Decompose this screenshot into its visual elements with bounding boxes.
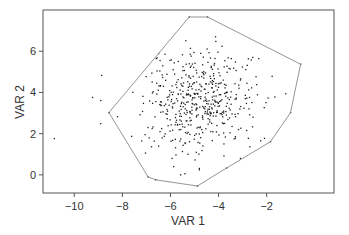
data-point — [264, 138, 265, 139]
data-point — [227, 72, 228, 73]
data-point — [191, 86, 192, 87]
data-point — [165, 80, 166, 81]
data-point — [219, 101, 220, 102]
data-point — [162, 111, 163, 112]
data-point — [175, 122, 176, 123]
data-point — [193, 76, 194, 77]
data-point — [229, 99, 230, 100]
data-point — [171, 101, 172, 102]
data-point — [202, 117, 203, 118]
data-point — [217, 68, 218, 69]
data-point — [205, 128, 206, 129]
data-point — [194, 159, 195, 160]
data-point — [213, 91, 214, 92]
data-point — [211, 67, 212, 68]
data-point — [172, 85, 173, 86]
data-point — [175, 114, 176, 115]
data-point — [192, 63, 193, 64]
data-point — [199, 84, 200, 85]
data-point — [151, 146, 152, 147]
data-point — [167, 99, 168, 100]
data-point — [211, 82, 212, 83]
data-point — [199, 127, 200, 128]
data-point — [184, 142, 185, 143]
data-point — [186, 102, 187, 103]
data-point — [203, 107, 204, 108]
data-point — [246, 83, 247, 84]
data-point — [200, 53, 201, 54]
data-point — [181, 103, 182, 104]
data-point — [180, 90, 181, 91]
data-point — [145, 152, 146, 153]
data-point — [172, 130, 173, 131]
data-point — [154, 141, 155, 142]
data-point — [181, 77, 182, 78]
data-point — [187, 101, 188, 102]
data-point — [188, 77, 189, 78]
data-point — [224, 123, 225, 124]
data-point — [175, 147, 176, 148]
data-point — [179, 129, 180, 130]
data-point — [192, 84, 193, 85]
data-point — [221, 113, 222, 114]
data-point — [235, 99, 236, 100]
data-point — [234, 138, 235, 139]
data-point — [225, 96, 226, 97]
data-point — [199, 169, 200, 170]
data-point — [209, 121, 210, 122]
data-point — [160, 101, 161, 102]
data-point — [200, 137, 201, 138]
data-point — [211, 123, 212, 124]
data-point — [167, 118, 168, 119]
data-point — [252, 117, 253, 118]
data-point — [180, 113, 181, 114]
data-point — [205, 106, 206, 107]
data-point — [171, 158, 172, 159]
data-point — [183, 145, 184, 146]
data-point — [202, 145, 203, 146]
data-point — [216, 110, 217, 111]
data-point — [272, 76, 273, 77]
data-point — [158, 85, 159, 86]
data-point — [217, 52, 218, 53]
data-point — [185, 74, 186, 75]
data-point — [229, 132, 230, 133]
data-point — [252, 57, 253, 58]
data-point — [192, 103, 193, 104]
data-point — [190, 78, 191, 79]
data-point — [179, 111, 180, 112]
data-point — [196, 70, 197, 71]
data-point — [159, 131, 160, 132]
data-point — [207, 113, 208, 114]
data-point — [175, 139, 176, 140]
data-point — [152, 126, 153, 127]
data-point — [185, 104, 186, 105]
data-point — [249, 114, 250, 115]
data-point — [248, 58, 249, 59]
data-point — [189, 141, 190, 142]
data-point — [198, 96, 199, 97]
data-point — [158, 145, 159, 146]
data-point — [209, 119, 210, 120]
data-point — [165, 113, 166, 114]
data-point — [169, 105, 170, 106]
data-point — [205, 111, 206, 112]
data-point — [172, 103, 173, 104]
data-point — [156, 70, 157, 71]
data-point — [140, 114, 141, 115]
data-point — [245, 98, 246, 99]
data-point — [223, 123, 224, 124]
data-point — [217, 112, 218, 113]
data-point — [209, 111, 210, 112]
data-point — [166, 74, 167, 75]
data-point — [190, 95, 191, 96]
data-point — [204, 113, 205, 114]
data-point — [201, 150, 202, 151]
data-point — [149, 100, 150, 101]
data-point — [223, 112, 224, 113]
x-axis: −10−8−6−4−2 — [65, 193, 273, 212]
data-point — [183, 82, 184, 83]
data-point — [172, 94, 173, 95]
data-point — [189, 134, 190, 135]
data-point — [237, 113, 238, 114]
